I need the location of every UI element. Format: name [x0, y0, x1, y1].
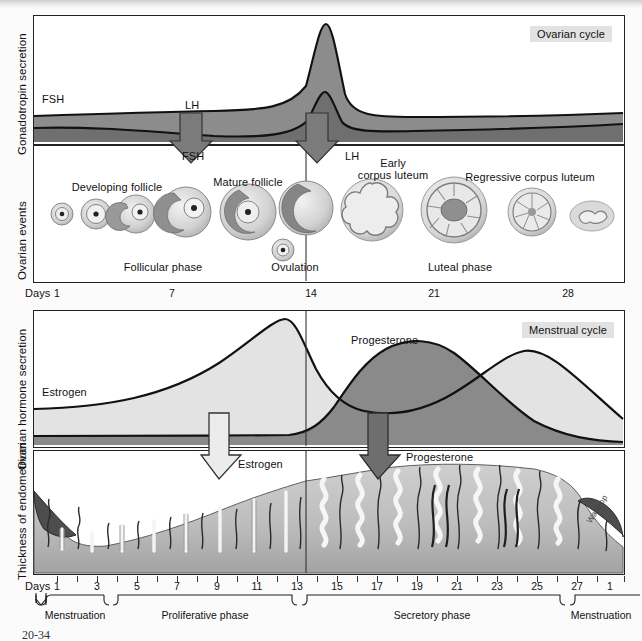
corpus-luteum-early — [341, 179, 403, 241]
day-tickmark — [117, 576, 118, 582]
bottom-day-tick: 13 — [291, 580, 303, 592]
day-tickmark — [77, 576, 78, 582]
bottom-days-label: Days — [25, 580, 50, 592]
day-tickmark — [157, 576, 158, 582]
label-follicular-phase: Follicular phase — [124, 261, 203, 273]
figure-number: 20-34 — [22, 628, 50, 641]
top-day-tick: 14 — [305, 287, 317, 299]
phase-bracket-rules — [0, 593, 642, 607]
bracket-label-menstruation-end: Menstruation — [571, 609, 632, 621]
bottom-days-axis: Days 1 3 5 7 9 11 13 15 17 19 21 23 — [0, 576, 642, 594]
axis-label-endometrium: Thickness of endometrium — [16, 470, 28, 580]
axis-label-ovarian-events: Ovarian events — [16, 175, 28, 280]
endometrium-art — [34, 451, 623, 573]
arrow-label-progesterone: Progesterone — [406, 451, 473, 463]
day-tickmark — [397, 576, 398, 582]
label-estrogen-curve: Estrogen — [42, 386, 87, 398]
follicle-mature — [220, 184, 276, 240]
follicle-antral — [153, 187, 211, 237]
released-ovum — [272, 239, 294, 261]
label-luteal-phase: Luteal phase — [428, 261, 492, 273]
bracket-label-menstruation-start: Menstruation — [45, 609, 106, 621]
panel-ovarian-events — [33, 145, 625, 283]
bottom-day-tick: 19 — [411, 580, 423, 592]
progesterone-arrow — [360, 413, 410, 481]
bottom-day-tick: 9 — [214, 580, 220, 592]
bracket-label-secretory-phase: Secretory phase — [394, 609, 470, 621]
top-day-tick: 21 — [428, 287, 440, 299]
bottom-day-tick: 5 — [134, 580, 140, 592]
follicle-secondary — [106, 195, 155, 233]
badge-menstrual-cycle: Menstrual cycle — [522, 322, 614, 338]
estrogen-arrow — [201, 413, 251, 481]
bottom-day-tick: 23 — [491, 580, 503, 592]
bottom-day-tick: 25 — [531, 580, 543, 592]
label-fsh-curve: FSH — [42, 93, 64, 105]
bottom-day-tick: 7 — [174, 580, 180, 592]
bracket-label-proliferative-phase: Proliferative phase — [162, 609, 249, 621]
corpus-luteum-mature — [421, 177, 487, 243]
follicle-primordial — [51, 203, 73, 225]
label-developing-follicle: Developing follicle — [72, 181, 163, 193]
arrow-label-fsh: FSH — [182, 150, 204, 162]
top-day-tick: 1 — [54, 287, 60, 299]
bottom-day-tick: 11 — [252, 580, 263, 592]
arrow-label-estrogen: Estrogen — [238, 458, 283, 470]
label-lh-curve: LH — [185, 99, 199, 111]
day-tickmark — [197, 576, 198, 582]
panel-endometrium — [33, 450, 625, 575]
day-tickmark — [277, 576, 278, 582]
follicle-ovulating — [279, 181, 333, 235]
badge-ovarian-cycle: Ovarian cycle — [530, 26, 612, 42]
label-early-corpus-luteum-line2: corpus luteum — [358, 169, 428, 181]
day-tickmark — [597, 576, 598, 582]
corpus-luteum-regressing — [508, 188, 556, 236]
label-regressive-corpus-luteum: Regressive corpus luteum — [465, 171, 595, 183]
top-days-axis: Days 1 7 14 21 28 — [0, 286, 642, 302]
bottom-day-tick: 15 — [331, 580, 343, 592]
label-early-corpus-luteum-line1: Early — [380, 157, 406, 169]
bottom-day-tick: 1 — [607, 580, 613, 592]
bottom-day-tick: 1 — [54, 580, 60, 592]
label-progesterone-curve: Progesterone — [351, 334, 418, 346]
label-ovulation: Ovulation — [271, 261, 318, 273]
ovarian-events-art — [34, 146, 623, 281]
day-tickmark — [237, 576, 238, 582]
bottom-day-tick: 21 — [451, 580, 463, 592]
bottom-day-tick: 27 — [571, 580, 583, 592]
top-days-label: Days — [25, 287, 50, 299]
day-tickmark — [317, 576, 318, 582]
bottom-day-tick: 17 — [371, 580, 383, 592]
day-tickmark — [624, 576, 625, 582]
top-day-tick: 7 — [169, 287, 175, 299]
arrow-label-lh: LH — [345, 150, 359, 162]
figure-canvas: Gonadotropin secretion FSH LH Ovarian cy… — [0, 0, 642, 641]
bottom-day-tick: 3 — [94, 580, 100, 592]
label-mature-follicle: Mature follicle — [213, 176, 282, 188]
day-tickmark — [437, 576, 438, 582]
day-tickmark — [477, 576, 478, 582]
day-tickmark — [557, 576, 558, 582]
top-day-tick: 28 — [562, 287, 574, 299]
day-tickmark — [517, 576, 518, 582]
axis-label-gonadotropin: Gonadotropin secretion — [16, 20, 28, 155]
day-tickmark — [357, 576, 358, 582]
page-top-edge — [0, 0, 642, 9]
corpus-albicans — [570, 201, 614, 231]
